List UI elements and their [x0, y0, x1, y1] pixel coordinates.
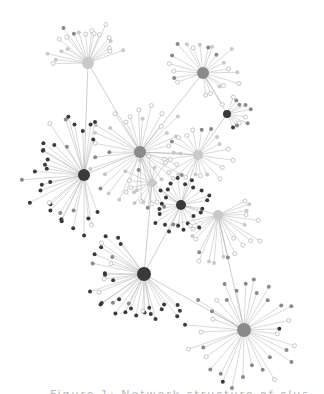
- leaf-node: [215, 135, 219, 139]
- leaf-node: [185, 42, 189, 46]
- leaf-node: [225, 298, 229, 302]
- leaf-node: [77, 30, 81, 34]
- leaf-node: [176, 115, 180, 119]
- leaf-node: [231, 158, 235, 162]
- leaf-node: [169, 182, 173, 186]
- leaf-node: [113, 312, 117, 316]
- spoke-edge: [244, 330, 292, 362]
- leaf-node: [212, 261, 216, 265]
- leaf-node: [197, 226, 201, 230]
- leaf-node: [227, 67, 231, 71]
- leaf-node: [128, 115, 132, 119]
- leaf-node: [171, 177, 175, 181]
- leaf-node: [93, 120, 97, 124]
- spoke-edge: [90, 152, 140, 169]
- leaf-node: [230, 47, 234, 51]
- leaf-node: [132, 190, 136, 194]
- leaf-node: [226, 147, 230, 151]
- leaf-node: [221, 380, 225, 384]
- leaf-node: [66, 115, 70, 119]
- hub-node-h2: [197, 67, 209, 79]
- leaf-node: [219, 372, 223, 376]
- leaf-node: [277, 327, 281, 331]
- leaf-node: [218, 84, 222, 88]
- leaf-node: [107, 150, 111, 154]
- leaf-node: [141, 117, 145, 121]
- leaf-node: [235, 124, 239, 128]
- leaf-node: [65, 35, 69, 39]
- leaf-node: [176, 80, 180, 84]
- leaf-node: [182, 228, 186, 232]
- leaf-node: [110, 255, 114, 259]
- leaf-node: [149, 104, 153, 108]
- leaf-node: [191, 46, 195, 50]
- leaf-node: [176, 176, 180, 180]
- leaf-node: [137, 168, 141, 172]
- leaf-node: [166, 188, 170, 192]
- leaf-node: [66, 47, 70, 51]
- leaf-node: [121, 48, 125, 52]
- leaf-node: [45, 167, 49, 171]
- leaf-node: [89, 123, 93, 127]
- leaf-node: [285, 348, 289, 352]
- leaf-node: [191, 234, 195, 238]
- leaf-node: [210, 309, 214, 313]
- hub-node-h11: [237, 323, 251, 337]
- leaf-node: [102, 277, 106, 281]
- hub-node-h4: [134, 146, 146, 158]
- leaf-node: [100, 301, 104, 305]
- leaf-node: [99, 186, 103, 190]
- leaf-node: [167, 144, 171, 148]
- leaf-node: [147, 154, 151, 158]
- leaf-node: [158, 212, 162, 216]
- leaf-node: [273, 378, 277, 382]
- leaf-node: [48, 209, 52, 213]
- leaf-node: [48, 180, 52, 184]
- leaf-node: [59, 49, 63, 53]
- leaf-node: [92, 32, 96, 36]
- leaf-node: [99, 245, 103, 249]
- leaf-node: [237, 103, 241, 107]
- leaf-node: [82, 234, 86, 238]
- leaf-node: [222, 255, 226, 259]
- hub-node-h3: [223, 110, 231, 118]
- spoke-edge: [61, 175, 84, 219]
- leaf-node: [172, 76, 176, 80]
- leaf-node: [247, 202, 251, 206]
- leaf-node: [220, 103, 224, 107]
- leaf-node: [231, 125, 235, 129]
- leaf-node: [245, 209, 249, 213]
- leaf-node: [159, 189, 163, 193]
- spoke-edge: [90, 274, 144, 292]
- leaf-node: [93, 155, 97, 159]
- hub-link: [144, 205, 181, 274]
- leaf-node: [129, 186, 133, 190]
- leaf-node: [196, 298, 200, 302]
- leaf-node: [200, 188, 204, 192]
- leaf-node: [33, 169, 37, 173]
- leaf-node: [20, 178, 24, 182]
- leaf-node: [155, 200, 159, 204]
- leaf-node: [199, 174, 203, 178]
- leaf-node: [165, 131, 169, 135]
- leaf-node: [211, 317, 215, 321]
- leaf-node: [207, 193, 211, 197]
- leaf-node: [205, 173, 209, 177]
- leaf-node: [204, 93, 208, 97]
- spoke-edge: [60, 175, 84, 213]
- leaf-node: [175, 163, 179, 167]
- hub-link: [181, 155, 198, 205]
- leaf-node: [162, 303, 166, 307]
- leaf-node: [290, 360, 294, 364]
- leaf-node: [172, 151, 176, 155]
- leaf-node: [194, 237, 198, 241]
- leaf-node: [176, 173, 180, 177]
- leaf-node: [164, 161, 168, 165]
- leaf-node: [62, 26, 66, 30]
- leaf-node: [81, 129, 85, 133]
- leaf-node: [209, 127, 213, 131]
- network-diagram: [0, 0, 324, 394]
- leaf-node: [46, 158, 50, 162]
- leaf-node: [28, 201, 32, 205]
- leaf-node: [41, 148, 45, 152]
